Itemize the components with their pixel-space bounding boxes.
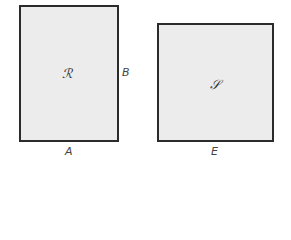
square-s-label: 𝒮 [210, 78, 220, 91]
rectangle-height-label: B [122, 67, 130, 78]
square-side-label: E [211, 146, 218, 157]
rectangle-r-label: ℛ [62, 67, 72, 80]
rectangle-width-label: A [65, 146, 73, 157]
